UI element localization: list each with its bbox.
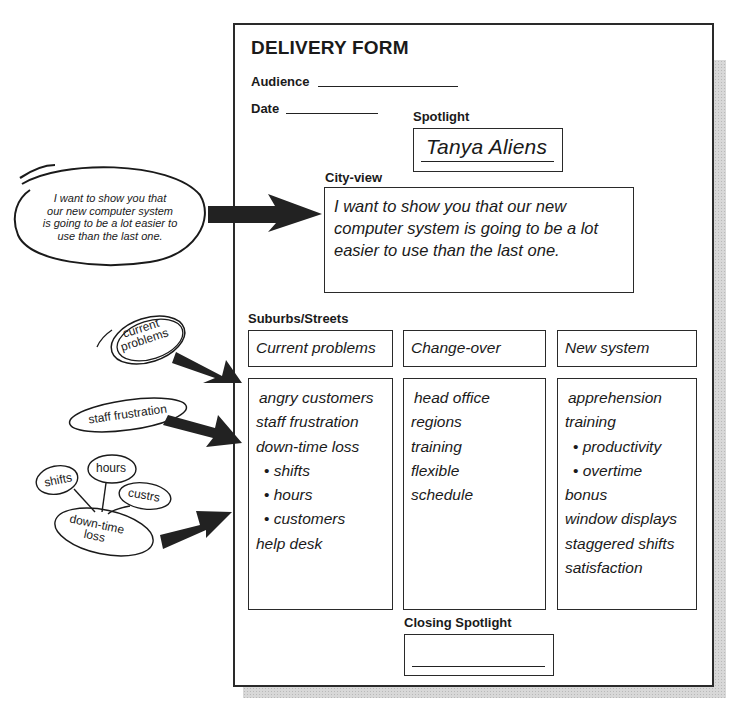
mindmap-branch-hours: hours [96, 461, 126, 475]
speech-line: use than the last one. [20, 230, 200, 243]
speech-line: is going to be a lot easier to [20, 217, 200, 230]
speech-bubble-text: I want to show you that our new computer… [20, 192, 200, 242]
annotation-drawings [0, 0, 734, 701]
speech-line: our new computer system [20, 205, 200, 218]
arrow-icon [208, 194, 322, 232]
arrow-icon [172, 352, 242, 383]
arrow-icon [160, 511, 232, 549]
arrow-icon [163, 415, 242, 447]
speech-line: I want to show you that [20, 192, 200, 205]
